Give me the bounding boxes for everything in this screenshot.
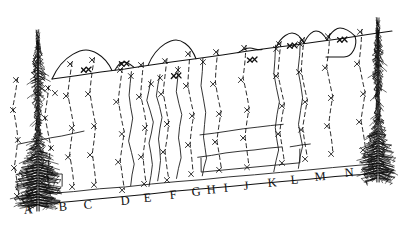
x-mark: [70, 184, 75, 189]
x-mark: [141, 181, 146, 186]
x-mark: [114, 99, 119, 104]
x-mark: [92, 182, 97, 187]
x-mark: [13, 77, 18, 82]
boundary-E: [129, 72, 135, 186]
dashed-G2: [163, 59, 169, 178]
boundary-H: [176, 66, 182, 178]
baseline-letter-l: L: [290, 172, 299, 187]
hill-bumps-group: [52, 28, 356, 79]
x-mark: [66, 155, 71, 160]
x-mark: [11, 165, 16, 170]
baseline-letter-i: I: [223, 181, 228, 195]
interior-contours-group: [18, 124, 311, 157]
ground-baseline-secondary: [22, 163, 384, 196]
x-mark: [87, 153, 92, 158]
baseline-letter-n: N: [344, 165, 354, 180]
x-mark: [176, 73, 181, 78]
x-mark: [241, 136, 246, 141]
x-mark: [142, 126, 147, 131]
x-mark: [119, 187, 124, 192]
x-mark: [158, 76, 163, 81]
dashed-F2: [141, 63, 147, 183]
x-mark: [171, 74, 176, 79]
dashed-H2: [188, 52, 194, 172]
x-mark: [81, 68, 86, 73]
x-mark: [85, 92, 90, 97]
baseline-letter-m: M: [314, 169, 326, 184]
dashed-K2: [278, 42, 285, 161]
x-mark: [354, 62, 359, 67]
x-mark: [149, 82, 154, 87]
x-mark: [325, 124, 330, 129]
dashed-I2: [215, 50, 221, 168]
x-mark: [252, 57, 257, 62]
conifer-trees-group: [10, 18, 397, 213]
baseline-letter-labels-group: ABCDEFGHIJKLMN: [23, 165, 354, 217]
annotation-shapes-group: [48, 149, 300, 186]
boundary-F: [147, 80, 154, 187]
x-mark: [86, 67, 91, 72]
x-mark: [116, 159, 121, 164]
baseline-letter-a: A: [23, 202, 33, 217]
contour-left: [18, 131, 84, 144]
dashed-C: [68, 62, 74, 185]
x-mark: [119, 132, 124, 137]
x-mark: [69, 125, 74, 130]
baseline-letter-c: C: [83, 197, 93, 212]
baseline-letter-b: B: [58, 199, 68, 214]
contour-right-short: [290, 144, 310, 147]
x-mark: [52, 90, 57, 95]
lower-right-box: [201, 149, 300, 172]
x-mark: [238, 77, 243, 82]
baseline-letter-f: F: [169, 187, 177, 202]
x-mark: [247, 58, 252, 63]
conifer-tree-left: [10, 30, 61, 213]
dashed-M2: [327, 34, 333, 152]
dashed-D: [90, 58, 96, 182]
x-mark: [302, 156, 307, 161]
x-marks-group: [10, 29, 365, 198]
boundary-I: [201, 58, 207, 175]
boundary-L: [298, 40, 303, 169]
x-mark: [210, 82, 215, 87]
contour-mid-lower: [198, 147, 282, 157]
baseline-letter-h: H: [206, 182, 216, 197]
x-mark: [138, 155, 143, 160]
x-mark: [189, 172, 194, 177]
baseline-letter-j: J: [243, 179, 249, 193]
hand-drawn-forest-cross-section: ABCDEFGHIJKLMN: [0, 0, 406, 227]
baseline-letter-k: K: [267, 175, 277, 190]
x-mark: [164, 177, 169, 182]
baseline-letter-g: G: [191, 184, 201, 199]
x-mark: [164, 121, 169, 126]
dashed-E2: [118, 68, 124, 189]
dashed-J2: [243, 46, 249, 165]
ridge-group: [52, 28, 392, 79]
dashed-N2: [359, 30, 365, 148]
conifer-tree-right: [357, 18, 398, 186]
baseline-letter-e: E: [143, 190, 152, 205]
solid-boundary-lines-group: [129, 40, 303, 187]
x-mark: [329, 151, 334, 156]
x-mark: [159, 92, 164, 97]
x-mark: [213, 139, 218, 144]
boundary-G: [156, 75, 162, 181]
x-mark: [357, 119, 362, 124]
contour-mid-upper: [200, 124, 283, 135]
boundary-K: [274, 45, 280, 172]
sketch-canvas: ABCDEFGHIJKLMN: [0, 0, 406, 227]
dashed-A: [13, 78, 19, 196]
x-mark: [185, 143, 190, 148]
baseline-letter-d: D: [120, 193, 130, 208]
